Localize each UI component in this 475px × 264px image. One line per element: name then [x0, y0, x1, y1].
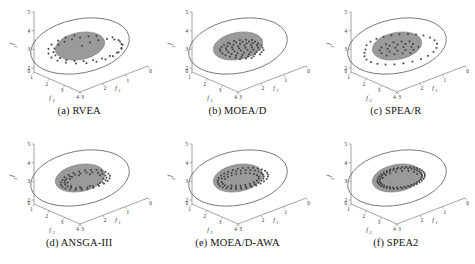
svg-text:2: 2: [204, 81, 207, 87]
data-point: [112, 55, 114, 57]
svg-text:3: 3: [398, 94, 401, 100]
svg-text:2: 2: [421, 85, 424, 91]
data-point: [240, 173, 242, 175]
data-point: [261, 51, 263, 53]
data-point: [383, 173, 385, 175]
data-point: [48, 53, 50, 55]
data-point: [254, 184, 256, 186]
svg-text:3: 3: [186, 178, 189, 184]
svg-text:1: 1: [189, 206, 192, 212]
svg-text:5: 5: [28, 9, 31, 15]
data-point: [121, 47, 123, 49]
data-point: [101, 170, 103, 172]
svg-text:3: 3: [330, 46, 335, 48]
data-point: [424, 174, 426, 176]
data-point: [233, 44, 235, 46]
data-point: [386, 172, 388, 174]
data-point: [250, 51, 252, 53]
data-point: [253, 49, 255, 51]
data-point: [400, 41, 402, 43]
data-point: [96, 169, 98, 171]
data-point: [397, 167, 399, 169]
data-point: [116, 52, 118, 54]
data-point: [384, 64, 386, 66]
svg-text:1: 1: [443, 77, 446, 83]
data-point: [386, 48, 388, 50]
data-point: [246, 39, 248, 41]
data-point: [378, 184, 380, 186]
data-point: [375, 38, 377, 40]
data-point: [78, 171, 80, 173]
data-point: [69, 189, 71, 191]
data-point: [78, 174, 80, 176]
data-point: [413, 171, 415, 173]
data-point: [421, 177, 423, 179]
data-point: [97, 184, 99, 186]
data-point: [105, 179, 107, 181]
data-point: [379, 181, 381, 183]
data-point: [412, 185, 414, 187]
data-point: [112, 36, 114, 38]
data-point: [393, 53, 395, 55]
data-point: [67, 182, 69, 184]
data-point: [218, 177, 220, 179]
data-point: [245, 186, 247, 188]
data-point: [89, 42, 91, 44]
data-point: [217, 181, 219, 183]
data-point: [240, 185, 242, 187]
data-point: [256, 51, 258, 53]
svg-text:1: 1: [30, 74, 33, 80]
data-point: [412, 49, 414, 51]
data-point: [248, 56, 250, 58]
data-point: [51, 57, 53, 59]
data-point: [224, 176, 226, 178]
data-point: [218, 179, 220, 181]
data-point: [228, 42, 230, 44]
data-point: [416, 167, 418, 169]
svg-text:4: 4: [186, 28, 189, 34]
data-point: [404, 43, 406, 45]
svg-text:1: 1: [347, 206, 350, 212]
svg-text:4: 4: [186, 160, 189, 166]
svg-text:2: 2: [262, 217, 265, 223]
data-point: [231, 175, 233, 177]
svg-text:0: 0: [308, 200, 311, 206]
svg-text:f: f: [9, 42, 15, 45]
svg-text:3: 3: [172, 178, 177, 180]
svg-text:3: 3: [219, 219, 222, 225]
data-point: [81, 45, 83, 47]
data-point: [251, 44, 253, 46]
data-point: [81, 187, 83, 189]
data-point: [257, 44, 259, 46]
data-point: [254, 170, 256, 172]
data-point: [429, 37, 431, 39]
data-point: [234, 40, 236, 42]
data-point: [380, 177, 382, 179]
data-point: [422, 35, 424, 37]
data-point: [416, 183, 418, 185]
data-point: [221, 181, 223, 183]
data-point: [97, 172, 99, 174]
data-point: [218, 183, 220, 185]
data-point: [389, 186, 391, 188]
data-point: [245, 172, 247, 174]
data-point: [254, 173, 256, 175]
data-point: [378, 175, 380, 177]
svg-text:4: 4: [235, 226, 238, 232]
svg-text:3: 3: [14, 46, 19, 48]
data-point: [227, 45, 229, 47]
data-point: [385, 43, 387, 45]
svg-text:3: 3: [240, 226, 243, 232]
data-point: [103, 178, 105, 180]
data-point: [245, 184, 247, 186]
data-point: [241, 50, 243, 52]
data-point: [396, 50, 398, 52]
data-point: [239, 47, 241, 49]
data-point: [235, 185, 237, 187]
data-point: [226, 49, 228, 51]
data-point: [401, 166, 403, 168]
data-point: [105, 59, 107, 61]
data-point: [421, 175, 423, 177]
data-point: [118, 39, 120, 41]
data-point: [224, 185, 226, 187]
